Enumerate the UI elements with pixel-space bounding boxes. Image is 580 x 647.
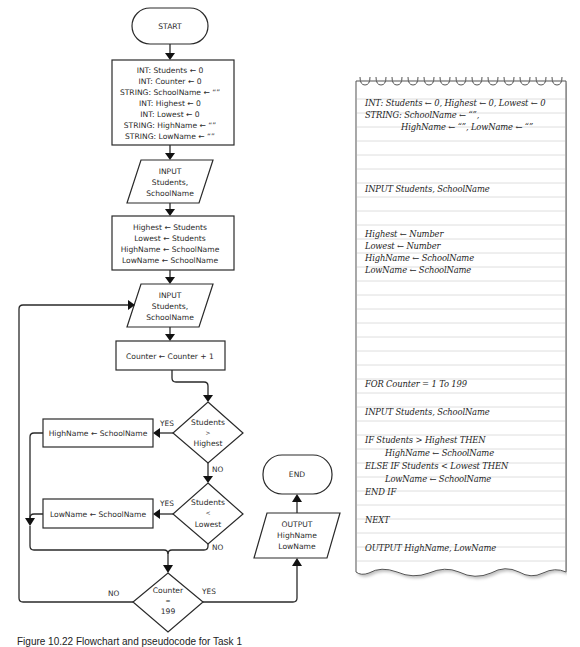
input2-line: SchoolName: [146, 313, 194, 322]
decision3-operator: =: [165, 597, 170, 604]
output-highname-lowname: OUTPUT HighName LowName: [254, 513, 340, 558]
pseudocode-line: INPUT Students, SchoolName: [365, 407, 490, 417]
decision1-operator: >: [205, 429, 210, 436]
pseudocode-line: INT: Students ← 0, Highest ← 0, Lowest ←…: [365, 98, 545, 108]
input-students-schoolname-1: INPUT Students, SchoolName: [127, 160, 213, 203]
pseudocode-line: INPUT Students, SchoolName: [365, 184, 490, 194]
highname-assign-label: HighName ← SchoolName: [49, 429, 148, 438]
input2-line: INPUT: [159, 291, 182, 300]
input2-line: Students,: [152, 302, 188, 311]
pseudocode-line: STRING: SchoolName ← “”,: [365, 110, 479, 120]
end-label: END: [289, 470, 305, 479]
pseudocode-line: LowName ← SchoolName: [385, 474, 491, 484]
pseudocode-notepad: INT: Students ← 0, Highest ← 0, Lowest ←…: [355, 75, 567, 585]
input-students-schoolname-2: INPUT Students, SchoolName: [127, 284, 213, 327]
decision2-line: Students: [191, 498, 225, 507]
pseudocode-line: Highest ← Number: [365, 229, 443, 239]
pseudocode-line: HighName ← SchoolName: [365, 253, 474, 263]
pseudocode-line: NEXT: [365, 515, 389, 525]
init-line: STRING: SchoolName ← “”: [120, 88, 220, 97]
flowchart: START INT: Students ← 0 INT: Counter ← 0…: [0, 0, 350, 635]
output-line: OUTPUT: [282, 520, 313, 529]
decision3-line: Counter: [153, 586, 184, 595]
figure-caption: Figure 10.22 Flowchart and pseudocode fo…: [17, 636, 242, 647]
init-line: INT: Highest ← 0: [139, 99, 201, 108]
assign-line: LowName ← SchoolName: [122, 256, 218, 265]
decision1-line: Highest: [193, 439, 222, 448]
decision2-yes-label: YES: [159, 499, 174, 508]
assign-first-values-process: Highest ← Students Lowest ← Students Hig…: [112, 216, 234, 270]
decision3-no-label: NO: [108, 589, 120, 598]
start-label: START: [158, 22, 182, 31]
pseudocode-line: END IF: [365, 487, 396, 497]
counter-increment-label: Counter ← Counter + 1: [126, 352, 214, 361]
init-line: INT: Lowest ← 0: [140, 110, 199, 119]
pseudocode-line: Lowest ← Number: [365, 241, 440, 251]
init-line: INT: Students ← 0: [137, 66, 204, 75]
end-terminator: END: [263, 455, 332, 494]
assign-line: HighName ← SchoolName: [121, 245, 220, 254]
highname-assign-process: HighName ← SchoolName: [43, 419, 153, 447]
lowname-assign-label: LowName ← SchoolName: [50, 510, 146, 519]
decision-counter-equals-199: Counter = 199: [133, 573, 203, 632]
decision-students-greater-than-highest: Students > Highest: [173, 402, 243, 463]
init-line: INT: Counter ← 0: [138, 77, 201, 86]
decision-students-less-than-lowest: Students < Lowest: [173, 483, 243, 544]
start-terminator: START: [132, 8, 208, 44]
decision1-yes-label: YES: [159, 419, 174, 428]
output-line: HighName: [277, 531, 317, 540]
decision2-line: Lowest: [195, 520, 222, 529]
decision2-no-label: NO: [212, 543, 224, 552]
counter-increment-process: Counter ← Counter + 1: [116, 341, 225, 370]
notepad-paper: [355, 75, 567, 585]
lowname-assign-process: LowName ← SchoolName: [43, 499, 153, 528]
pseudocode-line: LowName ← SchoolName: [365, 265, 471, 275]
pseudocode-line: OUTPUT HighName, LowName: [365, 543, 496, 553]
assign-line: Highest ← Students: [133, 223, 207, 232]
assign-line: Lowest ← Students: [134, 234, 206, 243]
pseudocode-line: HighName ← SchoolName: [385, 448, 494, 458]
decision2-operator: <: [205, 509, 210, 516]
input1-line: INPUT: [159, 167, 182, 176]
pseudocode-line: ELSE IF Students < Lowest THEN: [365, 461, 508, 471]
decision3-line: 199: [161, 607, 176, 616]
input1-line: SchoolName: [146, 189, 194, 198]
decision1-line: Students: [191, 418, 225, 427]
pseudocode-line: FOR Counter = 1 To 199: [365, 379, 467, 389]
pseudocode-line: IF Students > Highest THEN: [365, 435, 485, 445]
decision1-no-label: NO: [212, 465, 224, 474]
init-line: STRING: HighName ← “”: [124, 121, 216, 130]
decision3-yes-label: YES: [201, 587, 216, 596]
output-line: LowName: [278, 542, 316, 551]
input1-line: Students,: [152, 178, 188, 187]
pseudocode-line: HighName ← “”, LowName ← “”: [401, 122, 533, 132]
init-line: STRING: LowName ← “”: [125, 132, 215, 141]
initialise-variables-process: INT: Students ← 0 INT: Counter ← 0 STRIN…: [112, 60, 234, 145]
